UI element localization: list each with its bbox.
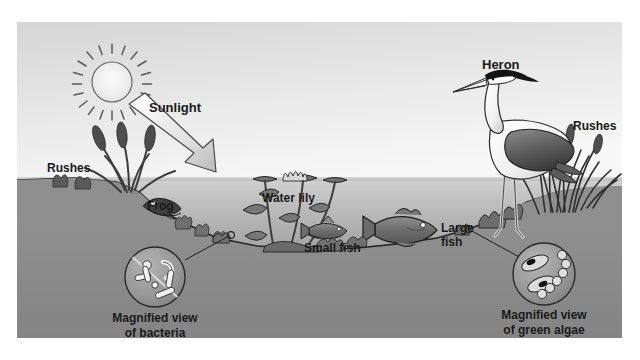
pond-ecosystem-figure: Sunlight Rushes Frog Water lily Small fi…	[17, 22, 622, 338]
svg-text:fish: fish	[441, 235, 462, 249]
svg-text:of bacteria: of bacteria	[125, 326, 186, 338]
label-rushes-left: Rushes	[47, 161, 91, 175]
pond-ecosystem-svg: Sunlight Rushes Frog Water lily Small fi…	[17, 22, 622, 338]
svg-text:of green algae: of green algae	[503, 323, 585, 337]
label-frog: Frog	[147, 199, 174, 213]
label-small-fish: Small fish	[304, 241, 361, 255]
svg-text:Large: Large	[441, 221, 474, 235]
svg-text:Magnified view: Magnified view	[112, 311, 198, 325]
label-sunlight: Sunlight	[149, 100, 202, 115]
label-magnified-green-algae: Magnified view of green algae	[501, 308, 587, 337]
svg-text:Magnified view: Magnified view	[501, 308, 587, 322]
illustration-canvas: Sunlight Rushes Frog Water lily Small fi…	[0, 0, 640, 360]
label-water-lily: Water lily	[262, 191, 315, 205]
label-heron: Heron	[482, 57, 520, 72]
label-rushes-right: Rushes	[573, 119, 617, 133]
